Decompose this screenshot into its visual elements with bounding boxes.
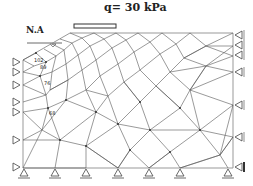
node-label-102: 102 [34, 57, 44, 63]
left-roller-supports [13, 58, 20, 171]
bottom-pin-supports [18, 169, 234, 178]
right-roller-supports [235, 31, 242, 141]
right-corner-fixed-block [243, 162, 245, 172]
node-label-68: 68 [49, 110, 55, 116]
node-label-89: 89 [40, 64, 46, 70]
model-boundary [23, 33, 233, 168]
node-label-76: 76 [44, 80, 50, 86]
triangular-mesh [23, 33, 233, 168]
fe-mesh-diagram [0, 0, 253, 186]
right-corner-support [235, 163, 242, 171]
load-bar [74, 24, 116, 28]
